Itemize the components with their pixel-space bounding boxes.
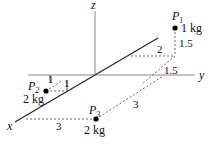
coordinate-diagram: z y x P1 1 kg 1.5 2 1.5 P2 2 kg 1 1 P3 2… bbox=[0, 0, 209, 149]
p3-label: P3 bbox=[88, 103, 100, 119]
y-axis-label: y bbox=[198, 68, 205, 82]
p2-dim-a-label: 1 bbox=[48, 73, 54, 85]
p2-mass: 2 kg bbox=[23, 92, 44, 106]
p3-mass: 2 kg bbox=[84, 123, 105, 137]
p1-height-label: 1.5 bbox=[179, 37, 193, 49]
p2-point bbox=[43, 88, 48, 93]
diagram: z y x P1 1 kg 1.5 2 1.5 P2 2 kg 1 1 P3 2… bbox=[0, 0, 209, 149]
p1-mass: 1 kg bbox=[181, 21, 202, 35]
z-axis-label: z bbox=[90, 0, 96, 12]
p3-x-label: 3 bbox=[56, 120, 62, 132]
p2-dim-b-label: 1 bbox=[64, 77, 70, 89]
p3-y-dash bbox=[96, 76, 163, 119]
p1-y-offset-label: 1.5 bbox=[164, 64, 178, 76]
p1-x-offset-label: 2 bbox=[157, 43, 163, 55]
x-axis-back bbox=[95, 38, 158, 75]
p3-y-label: 3 bbox=[133, 98, 139, 110]
x-axis-label: x bbox=[6, 119, 13, 133]
p1-point bbox=[172, 25, 177, 30]
